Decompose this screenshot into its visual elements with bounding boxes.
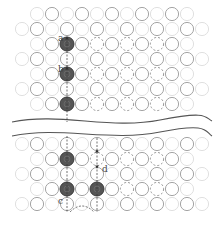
lattice-site xyxy=(135,182,148,195)
lattice-site xyxy=(120,7,133,20)
lattice-site xyxy=(135,197,148,210)
lattice-site xyxy=(45,167,58,180)
lattice-site xyxy=(45,22,58,35)
label-d: d xyxy=(102,164,108,174)
lattice-site xyxy=(30,167,43,180)
lattice-site xyxy=(105,197,118,210)
lattice-site xyxy=(135,137,148,150)
lattice-site xyxy=(150,22,163,35)
label-a: a xyxy=(58,33,64,43)
vacancy-site xyxy=(120,182,133,195)
vacancy-site xyxy=(150,67,163,80)
lattice-site xyxy=(90,22,103,35)
lattice-site xyxy=(75,167,88,180)
lattice-site xyxy=(165,22,178,35)
lattice-site xyxy=(165,37,178,50)
lattice-site xyxy=(165,137,178,150)
break-lines xyxy=(12,115,212,136)
lattice-site xyxy=(45,152,58,165)
lattice-site xyxy=(30,82,43,95)
lattice-site xyxy=(195,82,208,95)
lattice-site xyxy=(75,152,88,165)
lattice-site xyxy=(180,67,193,80)
label-c: c xyxy=(58,196,63,206)
lattice-site xyxy=(165,7,178,20)
lattice-site xyxy=(45,137,58,150)
lattice-site xyxy=(120,52,133,65)
exchange-path-curve xyxy=(70,206,94,212)
lattice-site xyxy=(120,197,133,210)
lattice-site xyxy=(30,7,43,20)
lattice-site xyxy=(75,137,88,150)
vacancy-site xyxy=(120,67,133,80)
lattice-site xyxy=(135,22,148,35)
lattice-site xyxy=(45,52,58,65)
lattice-site xyxy=(180,97,193,110)
lattice-site xyxy=(45,182,58,195)
lattice-site xyxy=(150,82,163,95)
lattice-site xyxy=(135,37,148,50)
lattice-site xyxy=(165,82,178,95)
lattice-site xyxy=(45,37,58,50)
lattice-site xyxy=(165,52,178,65)
lattice-site xyxy=(90,7,103,20)
lattice-site xyxy=(150,167,163,180)
lattice-site xyxy=(135,7,148,20)
lattice-site xyxy=(150,197,163,210)
lattice-site xyxy=(105,67,118,80)
lattice-site xyxy=(195,197,208,210)
lattice-site xyxy=(105,37,118,50)
lattice-site xyxy=(105,137,118,150)
vacancy-site xyxy=(150,37,163,50)
vacancy-site xyxy=(150,152,163,165)
lattice-site xyxy=(105,22,118,35)
lattice-site xyxy=(15,137,28,150)
lattice-site xyxy=(135,82,148,95)
lattice-site xyxy=(135,167,148,180)
lattice-site xyxy=(120,82,133,95)
lattice-site xyxy=(150,137,163,150)
lattice-site xyxy=(105,97,118,110)
label-b: b xyxy=(58,64,64,74)
lattice-site xyxy=(180,37,193,50)
vacancy-site xyxy=(150,97,163,110)
lattice-site xyxy=(75,67,88,80)
lattice-site xyxy=(30,97,43,110)
vacancy-site xyxy=(120,97,133,110)
lattice-site xyxy=(75,37,88,50)
lattice-site xyxy=(45,197,58,210)
lattice-diagram: abcd xyxy=(0,0,221,228)
lattice-site xyxy=(165,67,178,80)
lattice-site xyxy=(30,37,43,50)
lattice-site xyxy=(135,152,148,165)
vacancy-site xyxy=(150,182,163,195)
lattice-site xyxy=(45,82,58,95)
lattice-site xyxy=(90,52,103,65)
lattice-site xyxy=(180,7,193,20)
lattice-site xyxy=(30,67,43,80)
lattice-site xyxy=(180,52,193,65)
lattice-site xyxy=(75,7,88,20)
lattice-site xyxy=(180,182,193,195)
break-line xyxy=(12,128,212,136)
vacancy-site xyxy=(120,152,133,165)
lattice-site xyxy=(135,97,148,110)
break-line xyxy=(12,115,212,123)
lattice-site xyxy=(75,22,88,35)
lattice-site xyxy=(30,52,43,65)
lattice-site xyxy=(15,167,28,180)
lattice-site xyxy=(15,52,28,65)
top-lattice-panel xyxy=(15,7,208,111)
lattice-site xyxy=(15,82,28,95)
lattice-site xyxy=(75,97,88,110)
vacancy-site xyxy=(90,97,103,110)
lattice-site xyxy=(180,22,193,35)
lattice-site xyxy=(180,137,193,150)
lattice-site xyxy=(105,82,118,95)
lattice-site xyxy=(75,182,88,195)
lattice-site xyxy=(60,7,73,20)
lattice-site xyxy=(180,152,193,165)
lattice-site xyxy=(105,52,118,65)
lattice-site xyxy=(165,182,178,195)
lattice-site xyxy=(75,52,88,65)
